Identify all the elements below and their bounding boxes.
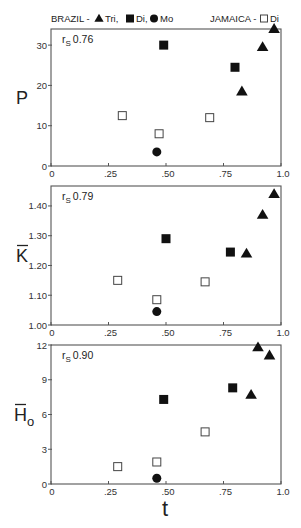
data-point-square-open <box>114 276 122 284</box>
panel-p: 0.25.50.751.00102030rS0.76P <box>16 23 290 179</box>
series-brazil-tri <box>241 188 280 257</box>
legend-brazil-item: Tri, <box>105 13 118 24</box>
y-tick-label: 1.10 <box>29 290 48 301</box>
data-point-square-open <box>153 296 161 304</box>
data-point-circle-filled <box>152 474 161 483</box>
data-point-square-filled <box>228 383 237 392</box>
data-point-square-open <box>201 428 209 436</box>
series-jamaica-di <box>114 428 209 471</box>
x-tick-label: .25 <box>104 327 117 338</box>
x-tick-label: .75 <box>219 486 232 497</box>
data-point-triangle-filled <box>236 86 248 96</box>
data-point-triangle-filled <box>268 188 280 198</box>
x-tick-label: 1.0 <box>276 168 289 179</box>
y-tick-label: 12 <box>36 340 47 351</box>
data-point-square-filled <box>159 41 168 50</box>
data-point-square-filled <box>162 234 171 243</box>
data-point-square-open <box>201 278 209 286</box>
data-point-triangle-filled <box>268 23 280 33</box>
data-point-triangle-filled <box>264 350 276 360</box>
x-tick-label: .25 <box>104 168 117 179</box>
y-tick-label: 1.30 <box>29 230 48 241</box>
legend-square-open-icon <box>261 15 268 22</box>
series-brazil-mo <box>152 307 161 316</box>
data-point-square-filled <box>159 395 168 404</box>
data-point-circle-filled <box>152 307 161 316</box>
y-tick-label: 30 <box>36 40 47 51</box>
series-brazil-tri <box>236 23 280 95</box>
y-tick-label: 10 <box>36 120 47 131</box>
y-tick-label: 1.00 <box>29 320 48 331</box>
data-point-square-filled <box>231 63 240 72</box>
x-tick-label: 0 <box>49 168 54 179</box>
x-tick-label: 1.0 <box>276 327 289 338</box>
data-point-square-open <box>206 114 214 122</box>
y-tick-label: 9 <box>42 374 47 385</box>
legend-brazil-item: Di, <box>136 13 148 24</box>
legend-square-filled-icon <box>126 15 134 23</box>
series-brazil-tri <box>245 341 275 398</box>
legend-brazil-item: Mo <box>160 13 173 24</box>
data-point-triangle-filled <box>241 248 253 258</box>
data-point-triangle-filled <box>252 341 264 351</box>
x-tick-label: 0 <box>49 327 54 338</box>
series-brazil-mo <box>152 474 161 483</box>
y-tick-label: 0 <box>42 479 47 490</box>
data-point-square-filled <box>226 248 235 257</box>
series-brazil-di <box>162 234 235 256</box>
legend-circle-filled-icon <box>150 15 158 23</box>
data-point-square-open <box>118 112 126 120</box>
x-axis-label: t <box>162 496 168 521</box>
series-brazil-di <box>159 41 239 72</box>
x-tick-label: 0 <box>49 486 54 497</box>
y-tick-label: 1.40 <box>29 200 48 211</box>
x-tick-label: .50 <box>161 168 174 179</box>
x-tick-label: .75 <box>219 168 232 179</box>
data-point-square-open <box>155 130 163 138</box>
data-point-triangle-filled <box>245 389 257 399</box>
data-point-circle-filled <box>152 147 161 156</box>
panel-k: 0.25.50.751.01.001.101.201.301.40rS0.79K <box>16 186 290 338</box>
legend-jamaica-item: Di <box>270 13 279 24</box>
legend-brazil-label: BRAZIL - <box>51 13 90 24</box>
figure: BRAZIL -Tri,Di,MoJAMAICA -Di 0.25.50.751… <box>0 0 301 528</box>
y-axis-label: P <box>16 88 28 108</box>
x-tick-label: .25 <box>104 486 117 497</box>
y-tick-label: 1.20 <box>29 260 48 271</box>
y-tick-label: 20 <box>36 80 47 91</box>
series-jamaica-di <box>118 112 213 138</box>
data-point-square-open <box>153 458 161 466</box>
data-point-triangle-filled <box>257 209 269 219</box>
series-jamaica-di <box>114 276 209 303</box>
series-brazil-di <box>159 383 237 404</box>
y-axis-label: Ho <box>14 405 34 429</box>
x-tick-label: .75 <box>219 327 232 338</box>
data-point-square-open <box>114 463 122 471</box>
y-tick-label: 3 <box>42 444 47 455</box>
x-tick-label: 1.0 <box>276 486 289 497</box>
scatter-panels: 0.25.50.751.00102030rS0.76P0.25.50.751.0… <box>14 23 290 521</box>
spearman-annotation: rS0.79 <box>62 190 93 205</box>
legend: BRAZIL -Tri,Di,MoJAMAICA -Di <box>51 13 279 24</box>
data-point-triangle-filled <box>257 41 269 51</box>
y-axis-label: K <box>16 246 28 266</box>
series-brazil-mo <box>152 147 161 156</box>
plot-frame <box>51 345 281 484</box>
y-tick-label: 0 <box>42 161 47 172</box>
spearman-annotation: rS0.76 <box>62 33 93 48</box>
spearman-annotation: rS0.90 <box>62 349 93 364</box>
y-tick-label: 6 <box>42 409 47 420</box>
legend-jamaica-label: JAMAICA - <box>210 13 256 24</box>
x-tick-label: .50 <box>161 327 174 338</box>
panel-ho: 0.25.50.751.0036912rS0.90Hot <box>14 340 290 522</box>
legend-triangle-filled-icon <box>94 14 103 22</box>
